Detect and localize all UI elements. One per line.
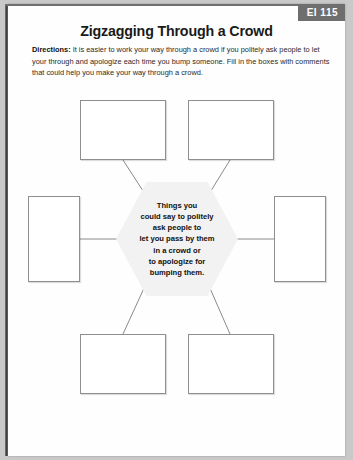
sheet-top-edge [5, 4, 337, 6]
center-hexagon-text: Things you could say to politely ask peo… [135, 200, 218, 278]
page-title: Zigzagging Through a Crowd [21, 22, 331, 40]
center-hexagon: Things you could say to politely ask peo… [116, 182, 238, 296]
answer-box-middle-left[interactable] [28, 196, 80, 282]
answer-box-top-right[interactable] [188, 100, 274, 160]
book-spine-shadow [5, 4, 8, 456]
worksheet-page: EI 115 Zigzagging Through a Crowd Direct… [0, 0, 353, 460]
worksheet-sheet: EI 115 Zigzagging Through a Crowd Direct… [8, 4, 345, 456]
answer-box-middle-right[interactable] [274, 196, 326, 282]
answer-box-bottom-right[interactable] [188, 334, 274, 394]
directions-label: Directions: [32, 45, 71, 54]
answer-box-bottom-left[interactable] [80, 334, 166, 394]
directions-paragraph: Directions: It is easier to work your wa… [32, 44, 334, 79]
answer-box-top-left[interactable] [80, 100, 166, 160]
page-code-badge: EI 115 [298, 4, 345, 21]
directions-body: It is easier to work your way through a … [32, 45, 329, 77]
